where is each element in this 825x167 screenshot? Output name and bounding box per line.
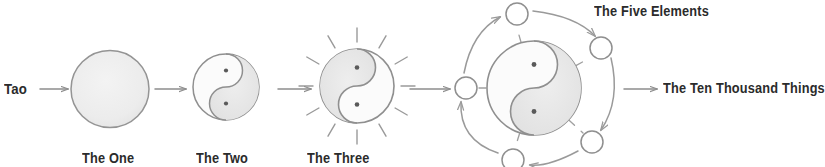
stage-the-five-elements <box>455 3 614 167</box>
label-the-five-elements: The Five Elements <box>594 3 709 19</box>
element-circle-upper-right <box>590 37 612 59</box>
cycle-arrow-lower-right-to-bottom <box>530 151 578 165</box>
label-the-ten-thousand-things: The Ten Thousand Things <box>663 80 825 96</box>
caption-the-three: The Three <box>307 150 370 166</box>
caption-the-two: The Two <box>196 150 248 166</box>
plain-circle-glyph <box>71 51 149 128</box>
stage-the-three <box>299 28 415 144</box>
yinyang-dot-lower <box>355 102 360 107</box>
cycle-arrow-top-to-upper-right <box>533 11 595 36</box>
yinyang-dot-lower <box>532 109 537 114</box>
cycle-arrow-upper-right-to-lower-right <box>601 58 614 130</box>
yinyang-dot-upper <box>532 62 537 67</box>
element-circle-lower-right <box>581 131 603 153</box>
yinyang-dot-upper <box>224 68 228 72</box>
label-tao: Tao <box>4 80 27 97</box>
stage-the-one <box>71 51 149 128</box>
element-circle-bottom <box>502 149 524 167</box>
element-circle-left <box>455 77 477 99</box>
caption-the-one: The One <box>82 150 134 166</box>
yinyang-dot-upper <box>355 65 360 70</box>
yinyang-dot-lower <box>224 101 228 105</box>
stage-the-two <box>193 54 259 120</box>
element-circle-top <box>506 3 528 25</box>
